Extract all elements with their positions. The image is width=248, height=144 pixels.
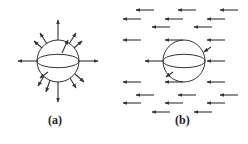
panel-a-label: (a)	[48, 113, 62, 128]
field-arrow-icon	[62, 40, 68, 53]
diagram-canvas	[0, 0, 248, 144]
field-arrow-icon	[69, 33, 76, 44]
field-arrow-icon	[70, 78, 76, 88]
field-arrow-icon	[40, 33, 47, 44]
sphere-equator	[37, 54, 79, 67]
field-arrow-icon	[204, 47, 211, 52]
panel-b-uniform-field	[123, 10, 238, 112]
panel-b-label: (b)	[175, 113, 190, 128]
field-arrow-icon	[75, 74, 84, 82]
field-arrow-icon	[46, 80, 50, 92]
panel-a-radial-field	[18, 20, 98, 102]
sphere	[163, 40, 205, 82]
field-arrow-icon	[74, 41, 82, 48]
field-arrow-icon	[34, 41, 42, 48]
sphere-equator	[163, 54, 205, 67]
